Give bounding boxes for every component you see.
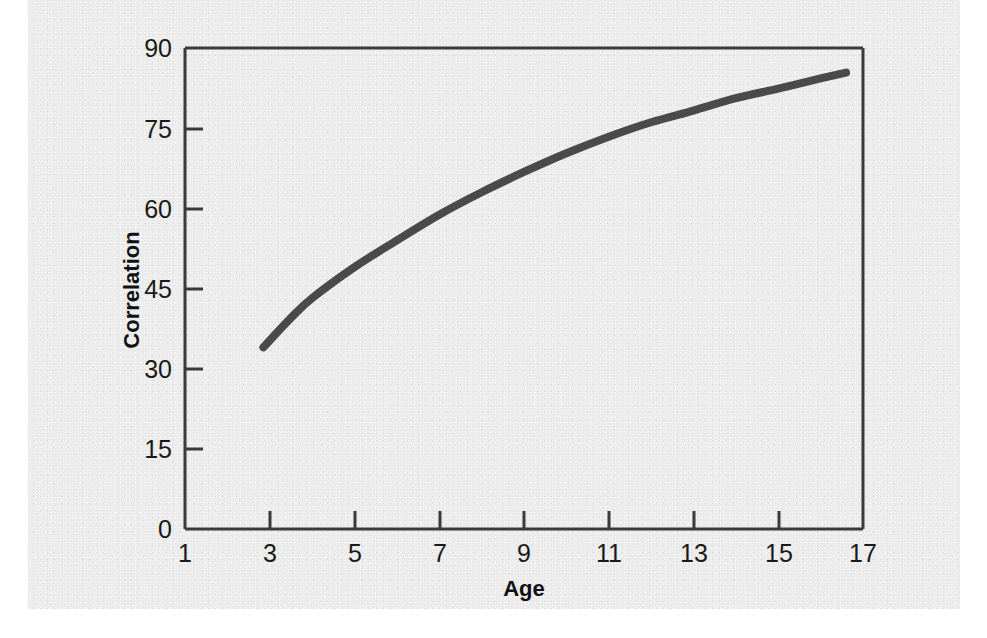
x-tick-label-15: 15 [765,539,793,567]
y-tick-label-90: 90 [144,34,172,62]
x-axis-tick-labels: 1 3 5 7 9 11 13 15 17 [178,539,877,567]
y-axis-tick-labels: 90 75 60 45 30 15 0 [144,34,172,543]
plot-frame [185,48,863,529]
y-tick-label-45: 45 [144,275,172,303]
y-tick-label-0: 0 [158,515,172,543]
x-tick-label-3: 3 [263,539,277,567]
x-axis-ticks [270,511,779,529]
x-axis-title: Age [503,576,545,601]
x-tick-label-7: 7 [433,539,447,567]
x-tick-label-13: 13 [680,539,708,567]
x-tick-label-5: 5 [348,539,362,567]
y-axis-ticks [185,129,203,449]
chart-figure: 90 75 60 45 30 15 0 1 3 5 7 9 11 13 15 1… [0,0,987,638]
x-tick-label-1: 1 [178,539,192,567]
x-tick-label-9: 9 [517,539,531,567]
y-tick-label-15: 15 [144,435,172,463]
correlation-curve [263,73,846,348]
y-tick-label-30: 30 [144,355,172,383]
x-tick-label-17: 17 [849,539,877,567]
y-tick-label-75: 75 [144,115,172,143]
y-axis-title: Correlation [119,231,144,348]
y-tick-label-60: 60 [144,195,172,223]
x-tick-label-11: 11 [596,539,622,567]
chart-canvas: 90 75 60 45 30 15 0 1 3 5 7 9 11 13 15 1… [0,0,987,638]
